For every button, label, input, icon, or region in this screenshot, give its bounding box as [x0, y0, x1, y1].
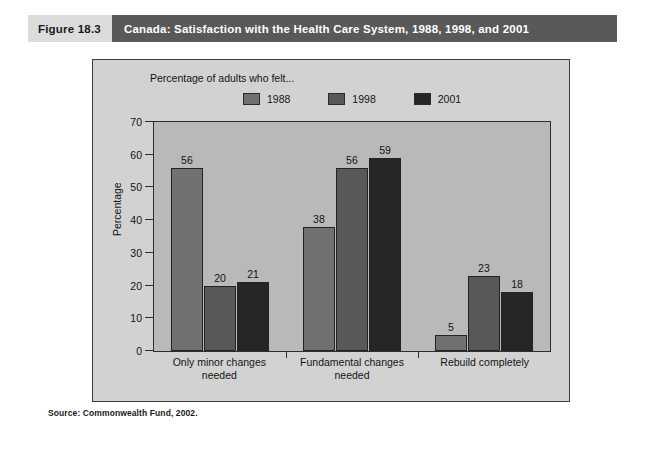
y-tick-label-70: 70 [130, 116, 142, 128]
source-note: Source: Commonwealth Fund, 2002. [48, 408, 198, 418]
y-tick-label-50: 50 [130, 181, 142, 193]
bar-value-label: 5 [448, 321, 454, 333]
y-tick-70 [145, 121, 153, 122]
y-tick-0 [145, 350, 153, 351]
legend-label-1998: 1998 [352, 93, 375, 105]
bar-1998: 56 [336, 168, 367, 351]
chart-panel: Percentage of adults who felt... 1988199… [92, 59, 570, 402]
legend-item-1998: 1998 [328, 93, 375, 105]
y-tick-30 [145, 252, 153, 253]
x-axis-category-labels: Only minor changesneededFundamental chan… [153, 356, 551, 382]
y-axis-title: Percentage [111, 182, 123, 236]
bar-1988: 5 [435, 335, 466, 351]
bar-group: 52318 [418, 122, 550, 351]
bar-value-label: 18 [511, 278, 523, 290]
category-label: Only minor changesneeded [153, 356, 286, 382]
category-label: Rebuild completely [418, 356, 551, 382]
y-tick-40 [145, 219, 153, 220]
legend-swatch-1988 [243, 93, 260, 105]
bar-1998: 20 [204, 286, 235, 351]
figure-header: Figure 18.3 Canada: Satisfaction with th… [28, 15, 617, 42]
legend-swatch-2001 [414, 93, 431, 105]
legend-swatch-1998 [328, 93, 345, 105]
y-tick-60 [145, 154, 153, 155]
bar-value-label: 21 [247, 268, 259, 280]
legend-item-2001: 2001 [414, 93, 461, 105]
chart-legend: 198819982001 [243, 93, 461, 105]
legend-label-1988: 1988 [267, 93, 290, 105]
bar-value-label: 56 [181, 154, 193, 166]
bar-value-label: 38 [313, 213, 325, 225]
y-tick-label-20: 20 [130, 280, 142, 292]
y-tick-20 [145, 285, 153, 286]
legend-label-2001: 2001 [438, 93, 461, 105]
plot-area: 010203040506070 56202138565952318 [153, 121, 551, 352]
bar-value-label: 20 [214, 272, 226, 284]
bar-1988: 56 [171, 168, 202, 351]
bar-value-label: 56 [346, 154, 358, 166]
bar-series-layer: 56202138565952318 [154, 122, 550, 351]
category-label: Fundamental changesneeded [286, 356, 419, 382]
bar-2001: 18 [501, 292, 532, 351]
y-tick-label-40: 40 [130, 214, 142, 226]
y-tick-label-30: 30 [130, 247, 142, 259]
bar-value-label: 59 [379, 144, 391, 156]
legend-caption: Percentage of adults who felt... [150, 72, 294, 84]
figure-page: Figure 18.3 Canada: Satisfaction with th… [0, 0, 646, 464]
bar-1988: 38 [303, 227, 334, 351]
y-tick-50 [145, 186, 153, 187]
figure-number: Figure 18.3 [28, 15, 112, 42]
bar-group: 562021 [154, 122, 286, 351]
y-tick-label-10: 10 [130, 312, 142, 324]
y-tick-10 [145, 317, 153, 318]
bar-1998: 23 [468, 276, 499, 351]
y-tick-label-0: 0 [136, 345, 142, 357]
bar-2001: 21 [237, 282, 268, 351]
figure-title: Canada: Satisfaction with the Health Car… [112, 15, 617, 42]
bar-value-label: 23 [478, 262, 490, 274]
bar-group: 385659 [286, 122, 418, 351]
bar-2001: 59 [369, 158, 400, 351]
legend-item-1988: 1988 [243, 93, 290, 105]
y-tick-label-60: 60 [130, 149, 142, 161]
